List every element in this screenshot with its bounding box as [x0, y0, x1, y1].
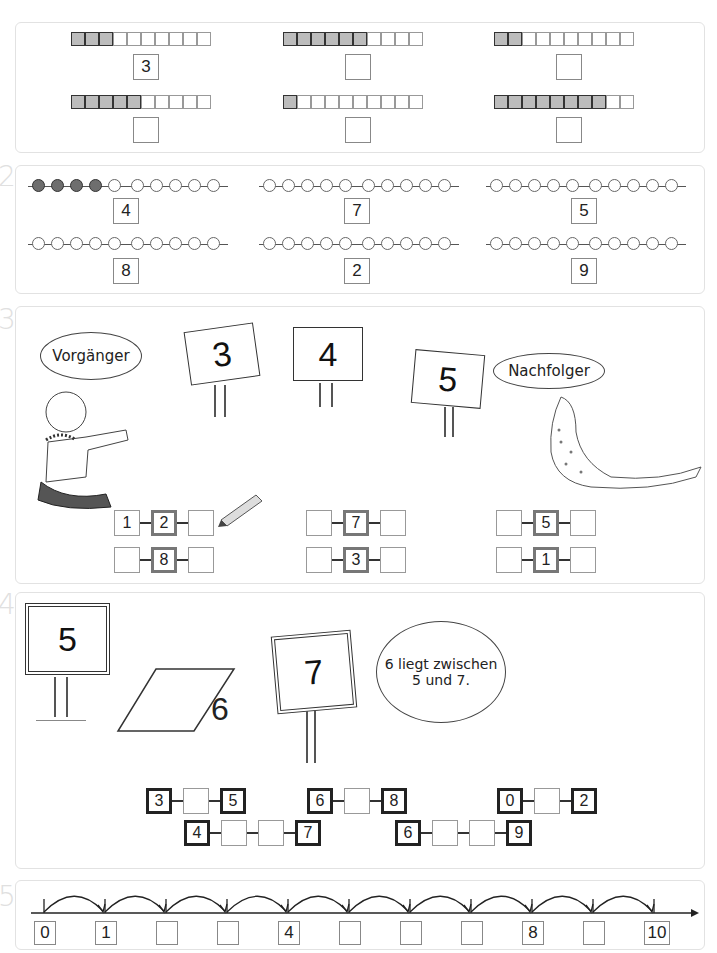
predecessor-box[interactable]	[306, 510, 332, 536]
bead[interactable]	[627, 179, 640, 192]
chain-link	[177, 559, 188, 561]
bead[interactable]	[509, 179, 522, 192]
predecessor-successor-chain: 3	[306, 547, 406, 573]
bead[interactable]	[419, 237, 432, 250]
bead[interactable]	[400, 179, 413, 192]
number-line-box[interactable]	[583, 921, 605, 945]
bead[interactable]	[646, 179, 659, 192]
bead[interactable]	[301, 179, 314, 192]
bead[interactable]	[339, 179, 352, 192]
bead[interactable]	[566, 179, 579, 192]
answer-box[interactable]	[556, 117, 582, 143]
bead[interactable]	[509, 237, 522, 250]
bead[interactable]	[547, 237, 560, 250]
bead[interactable]	[339, 237, 352, 250]
predecessor-box[interactable]	[114, 547, 140, 573]
predecessor-box[interactable]: 1	[114, 510, 140, 536]
number-line-box[interactable]	[217, 921, 239, 945]
given-number-box: 3	[146, 788, 172, 814]
bead[interactable]	[381, 179, 394, 192]
answer-box[interactable]: 3	[133, 54, 159, 80]
bead[interactable]	[547, 179, 560, 192]
between-answer-box[interactable]	[258, 820, 284, 846]
answer-box[interactable]	[345, 54, 371, 80]
bar-cell	[592, 32, 606, 46]
bead[interactable]	[150, 179, 163, 192]
bead[interactable]	[150, 237, 163, 250]
bead[interactable]	[131, 237, 144, 250]
bead[interactable]	[665, 179, 678, 192]
between-answer-box[interactable]	[183, 788, 209, 814]
bead[interactable]	[89, 237, 102, 250]
bead[interactable]	[89, 179, 102, 192]
bead[interactable]	[608, 237, 621, 250]
number-line-box[interactable]	[339, 921, 361, 945]
between-answer-box[interactable]	[344, 788, 370, 814]
bead[interactable]	[207, 237, 220, 250]
bead[interactable]	[381, 237, 394, 250]
number-line-box[interactable]	[461, 921, 483, 945]
successor-box[interactable]	[380, 547, 406, 573]
bead[interactable]	[438, 179, 451, 192]
predecessor-box[interactable]	[496, 510, 522, 536]
bead[interactable]	[207, 179, 220, 192]
bead[interactable]	[490, 179, 503, 192]
bead[interactable]	[400, 237, 413, 250]
bar-cell	[141, 32, 155, 46]
successor-box[interactable]	[188, 510, 214, 536]
bead[interactable]	[51, 237, 64, 250]
answer-box[interactable]	[556, 54, 582, 80]
successor-box[interactable]	[570, 510, 596, 536]
bead[interactable]	[362, 237, 375, 250]
bead[interactable]	[608, 179, 621, 192]
bead[interactable]	[490, 237, 503, 250]
bead[interactable]	[320, 237, 333, 250]
predecessor-box[interactable]	[306, 547, 332, 573]
predecessor-box[interactable]	[496, 547, 522, 573]
bar-cell	[564, 95, 578, 109]
bead[interactable]	[263, 179, 276, 192]
successor-box[interactable]	[188, 547, 214, 573]
bead[interactable]	[51, 179, 64, 192]
bead[interactable]	[70, 179, 83, 192]
between-answer-box[interactable]	[432, 820, 458, 846]
bead[interactable]	[108, 179, 121, 192]
bead[interactable]	[282, 237, 295, 250]
bead[interactable]	[301, 237, 314, 250]
successor-box[interactable]	[380, 510, 406, 536]
between-answer-box[interactable]	[534, 788, 560, 814]
bead[interactable]	[131, 179, 144, 192]
bead[interactable]	[627, 237, 640, 250]
bead[interactable]	[665, 237, 678, 250]
between-answer-box[interactable]	[469, 820, 495, 846]
given-number-box: 5	[533, 510, 559, 536]
bead[interactable]	[169, 237, 182, 250]
bead[interactable]	[589, 237, 602, 250]
number-line-box[interactable]	[400, 921, 422, 945]
bead[interactable]	[188, 237, 201, 250]
bead[interactable]	[70, 237, 83, 250]
bead[interactable]	[438, 237, 451, 250]
bead[interactable]	[169, 179, 182, 192]
answer-box[interactable]	[133, 117, 159, 143]
chain-link	[560, 800, 571, 802]
bead[interactable]	[528, 179, 541, 192]
successor-box[interactable]	[570, 547, 596, 573]
bubble-line-1: 6 liegt zwischen	[385, 656, 498, 672]
bead[interactable]	[188, 179, 201, 192]
bead[interactable]	[589, 179, 602, 192]
bead[interactable]	[282, 179, 295, 192]
bead[interactable]	[32, 179, 45, 192]
bead[interactable]	[263, 237, 276, 250]
bead[interactable]	[108, 237, 121, 250]
bead[interactable]	[646, 237, 659, 250]
between-answer-box[interactable]	[221, 820, 247, 846]
bead[interactable]	[528, 237, 541, 250]
bead[interactable]	[32, 237, 45, 250]
number-line-box[interactable]	[156, 921, 178, 945]
bead[interactable]	[566, 237, 579, 250]
answer-box[interactable]	[345, 117, 371, 143]
bead[interactable]	[419, 179, 432, 192]
bead[interactable]	[320, 179, 333, 192]
bead[interactable]	[362, 179, 375, 192]
